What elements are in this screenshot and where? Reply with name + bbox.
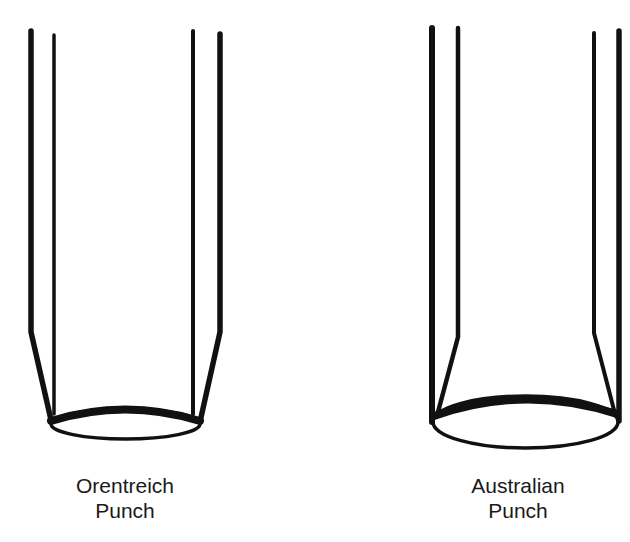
australian-punch-label: Australian Punch bbox=[418, 473, 618, 523]
orentreich-label-line2: Punch bbox=[25, 498, 225, 523]
punch-diagram bbox=[0, 0, 630, 542]
orentreich-punch-drawing bbox=[31, 31, 220, 439]
orentreich-label-line1: Orentreich bbox=[25, 473, 225, 498]
australian-label-line2: Punch bbox=[418, 498, 618, 523]
australian-cutting-edge bbox=[433, 396, 618, 448]
australian-label-line1: Australian bbox=[418, 473, 618, 498]
orentreich-rim-back bbox=[51, 410, 200, 422]
australian-punch-drawing bbox=[432, 28, 619, 448]
orentreich-outer-left-wall bbox=[31, 31, 51, 420]
orentreich-outer-right-wall bbox=[200, 34, 220, 422]
australian-inner-left-wall bbox=[438, 28, 458, 412]
australian-inner-right-wall bbox=[594, 33, 614, 410]
orentreich-punch-label: Orentreich Punch bbox=[25, 473, 225, 523]
